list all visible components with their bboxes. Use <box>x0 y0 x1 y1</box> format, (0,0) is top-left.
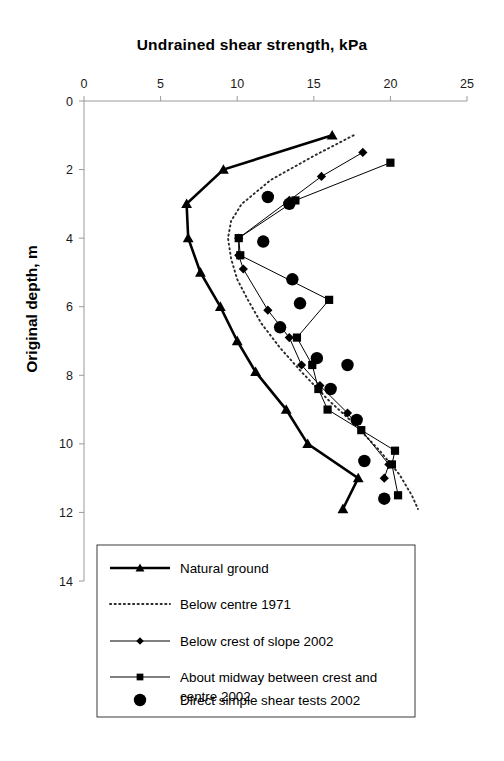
x-tick-label: 25 <box>460 77 474 91</box>
marker-square <box>293 333 301 341</box>
marker-circle <box>274 321 286 333</box>
marker-square <box>325 296 333 304</box>
marker-diamond <box>285 333 294 342</box>
legend-label: About midway between crest and <box>180 670 377 685</box>
marker-circle <box>294 297 306 309</box>
marker-diamond <box>263 306 272 315</box>
chart-legend: Natural groundBelow centre 1971Below cre… <box>97 545 415 717</box>
marker-diamond <box>317 172 326 181</box>
data-series-group <box>181 130 418 513</box>
y-tick-label: 12 <box>59 506 73 520</box>
series-line <box>239 152 389 478</box>
legend-marker-circle <box>134 694 146 706</box>
marker-circle <box>311 352 323 364</box>
marker-square <box>388 460 396 468</box>
series-0 <box>181 130 363 513</box>
marker-square <box>314 385 322 393</box>
marker-diamond <box>239 264 248 273</box>
x-tick-label: 10 <box>230 77 244 91</box>
marker-circle <box>257 235 269 247</box>
marker-square <box>357 426 365 434</box>
x-tick-label: 15 <box>307 77 321 91</box>
y-tick-label: 2 <box>66 163 73 177</box>
marker-square <box>323 405 331 413</box>
legend-label: Below centre 1971 <box>180 597 291 612</box>
plot-canvas: 0510152025 02468101214 Natural groundBel… <box>0 0 504 761</box>
marker-triangle <box>195 267 206 277</box>
marker-triangle <box>183 233 194 243</box>
marker-circle <box>283 198 295 210</box>
marker-triangle <box>338 504 349 514</box>
y-tick-label: 4 <box>66 232 73 246</box>
x-tick-label: 20 <box>383 77 397 91</box>
marker-circle <box>378 493 390 505</box>
marker-circle <box>350 414 362 426</box>
marker-triangle <box>232 336 243 346</box>
y-tick-label: 10 <box>59 437 73 451</box>
marker-square <box>236 251 244 259</box>
series-line <box>187 135 359 509</box>
marker-circle <box>324 383 336 395</box>
legend-label: Direct simple shear tests 2002 <box>180 693 360 708</box>
x-axis-ticks: 0510152025 <box>81 77 474 101</box>
chart-figure: Undrained shear strength, kPa Original d… <box>0 0 504 761</box>
marker-circle <box>358 455 370 467</box>
marker-circle <box>286 273 298 285</box>
marker-circle <box>262 191 274 203</box>
legend-marker-square <box>137 674 144 681</box>
x-tick-label: 0 <box>81 77 88 91</box>
marker-circle <box>341 359 353 371</box>
y-tick-label: 6 <box>66 300 73 314</box>
marker-square <box>391 447 399 455</box>
series-4 <box>257 191 390 505</box>
y-tick-label: 0 <box>66 95 73 109</box>
marker-diamond <box>358 148 367 157</box>
marker-diamond <box>380 474 389 483</box>
y-axis-ticks: 02468101214 <box>59 95 84 589</box>
series-2 <box>234 148 393 483</box>
marker-square <box>394 491 402 499</box>
legend-label: Below crest of slope 2002 <box>180 634 333 649</box>
y-tick-label: 8 <box>66 369 73 383</box>
y-tick-label: 14 <box>59 575 73 589</box>
marker-square <box>235 234 243 242</box>
x-tick-label: 5 <box>157 77 164 91</box>
marker-triangle <box>327 130 338 140</box>
legend-label: Natural ground <box>180 561 269 576</box>
marker-square <box>386 159 394 167</box>
